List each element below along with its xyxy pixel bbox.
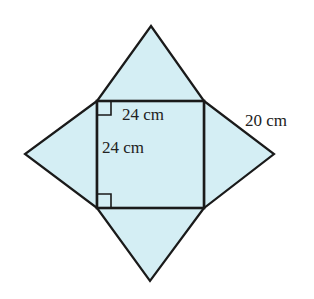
pyramid-net-diagram: 24 cm 24 cm 20 cm (0, 0, 314, 299)
top-triangle-face (97, 26, 204, 101)
base-top-length-label: 24 cm (122, 105, 164, 124)
bottom-triangle-face (97, 208, 204, 281)
base-side-length-label: 24 cm (102, 138, 144, 157)
slant-edge-length-label: 20 cm (245, 111, 287, 130)
left-triangle-face (25, 101, 97, 208)
